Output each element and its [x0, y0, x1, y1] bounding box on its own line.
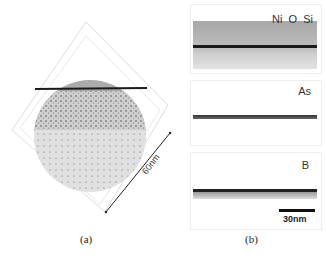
caption-a: (a)	[80, 233, 92, 245]
scale-bar	[279, 209, 315, 212]
reconstruction-3d	[0, 0, 180, 230]
element-label-as: As	[298, 85, 311, 97]
slice-ni-o-si: Ni O Si	[190, 4, 322, 74]
slice-b: B 30nm	[190, 152, 322, 230]
slice-as: As	[190, 80, 322, 146]
panel-a: 60nm	[0, 0, 180, 230]
element-label-ni-o-si: Ni O Si	[272, 13, 313, 25]
scale-bar-label: 30nm	[283, 214, 307, 224]
element-label-b: B	[302, 159, 309, 171]
caption-b: (b)	[245, 233, 258, 245]
